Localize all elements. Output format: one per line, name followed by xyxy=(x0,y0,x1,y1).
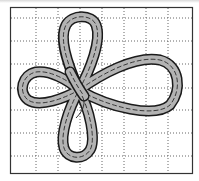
bias-tape-diagram xyxy=(0,0,199,181)
